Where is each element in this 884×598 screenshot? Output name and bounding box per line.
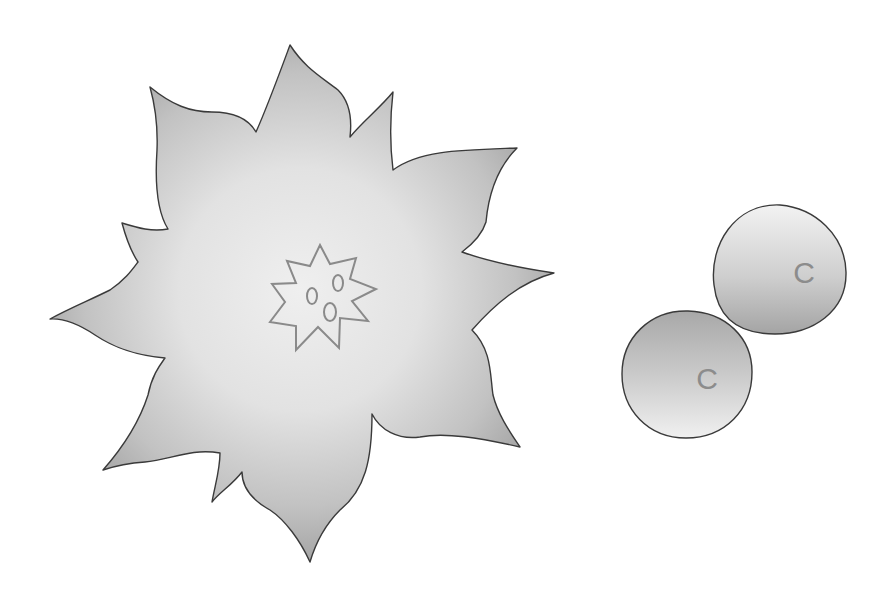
disc-lower-left-label: C [696,362,718,395]
flower-petals-shape [50,45,554,562]
disc-lower-left-shape [622,311,752,438]
disc-lower-left: C [622,311,752,438]
illustration-canvas: C C [0,0,884,598]
disc-upper-right-shape [713,205,846,334]
disc-upper-right-label: C [793,256,815,289]
flower [50,45,554,562]
disc-upper-right: C [713,205,846,334]
